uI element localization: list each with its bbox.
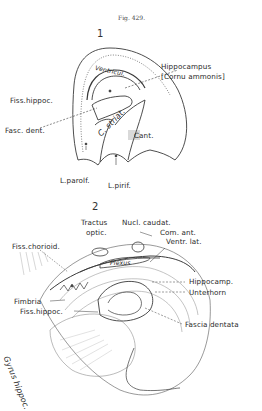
label-fimbria: Fimbria (14, 297, 41, 306)
label-plexus: Plexus (110, 259, 131, 266)
label-fiss-chorioid: Fiss.chorioid. (12, 242, 60, 251)
label-fascia-dentata: Fascia dentata (185, 320, 239, 329)
label-fiss-hippoc-1: Fiss.hippoc. (10, 96, 53, 105)
label-optic: optic. (86, 228, 107, 237)
label-fasc-dent: Fasc. dent. (5, 126, 45, 135)
panel-1-number: 1 (97, 28, 103, 39)
label-hippocampus: Hippocampus (161, 62, 211, 71)
label-tractus: Tractus (81, 218, 107, 227)
label-unterhorn: Unterhorn (189, 288, 226, 297)
label-nucl-caudat: Nucl. caudat. (122, 218, 171, 227)
label-hippocamp: Hippocamp. (189, 277, 233, 286)
label-cornu-ammonis: [Cornu ammonis] (161, 72, 225, 81)
label-fiss-hippoc-2: Fiss.hippoc. (20, 307, 63, 316)
label-ventr-lat: Ventr. lat. (166, 237, 202, 246)
label-l-parolf: L.parolf. (60, 176, 90, 185)
label-l-pirif: L.pirif. (108, 181, 131, 190)
label-com-ant: Com. ant. (160, 228, 196, 237)
label-cant: Cant. (134, 131, 154, 140)
panel-2-number: 2 (92, 201, 98, 212)
